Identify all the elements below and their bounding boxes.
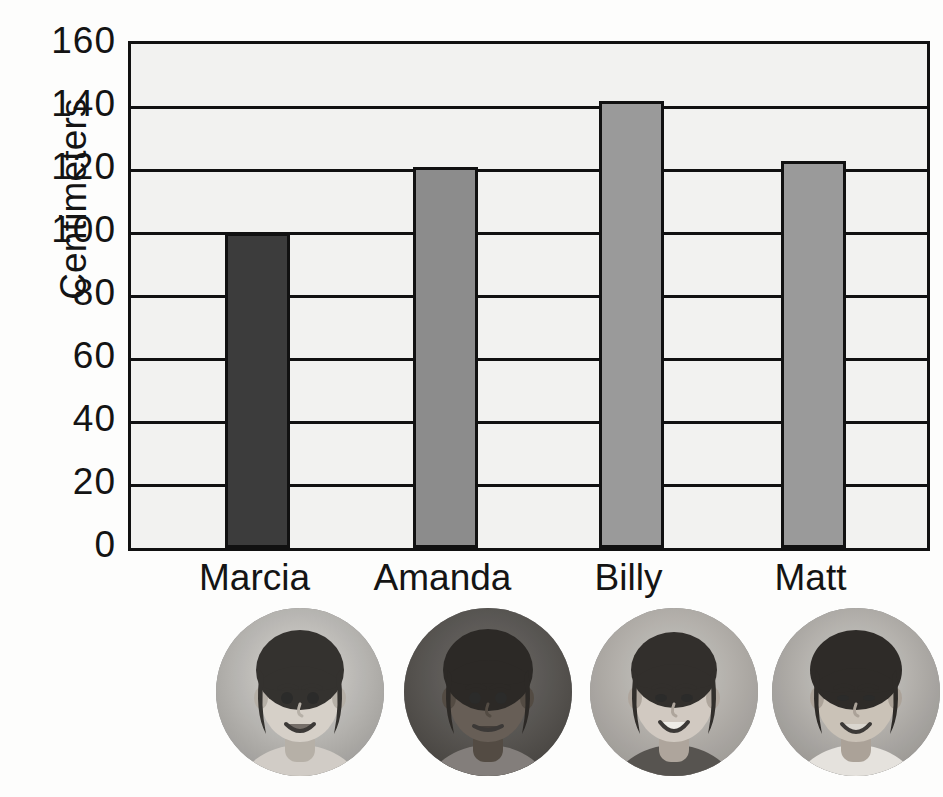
y-tick-label-100: 100 [6, 211, 116, 248]
x-tick-label-marcia: Marcia [155, 556, 355, 600]
gridline-140 [131, 106, 927, 109]
x-tick-label-matt: Matt [711, 556, 911, 600]
y-tick-label-0: 0 [6, 526, 116, 563]
matt-face-art [772, 608, 940, 776]
chart-title-clipped: Heights of Children in Our Class [0, 0, 943, 6]
x-tick-label-amanda: Amanda [343, 556, 543, 600]
portrait-billy [590, 608, 758, 776]
y-axis-tick-labels: 020406080100120140160 [0, 0, 116, 797]
portrait-marcia [216, 608, 384, 776]
y-tick-label-120: 120 [6, 148, 116, 185]
y-tick-label-160: 160 [6, 22, 116, 59]
y-tick-label-140: 140 [6, 85, 116, 122]
bar-marcia [225, 233, 290, 548]
bar-billy [599, 101, 664, 548]
y-tick-label-20: 20 [6, 463, 116, 500]
plot-inner [131, 44, 927, 548]
portrait-amanda [404, 608, 572, 776]
marcia-face-art [216, 608, 384, 776]
amanda-face-art [404, 608, 572, 776]
bar-matt [781, 161, 846, 548]
billy-face-art [590, 608, 758, 776]
y-tick-label-80: 80 [6, 274, 116, 311]
bar-chart-figure: Heights of Children in Our Class Centime… [0, 0, 943, 797]
portrait-row [128, 608, 930, 788]
x-tick-label-billy: Billy [529, 556, 729, 600]
y-tick-label-60: 60 [6, 337, 116, 374]
portrait-matt [772, 608, 940, 776]
plot-area [128, 41, 930, 551]
x-axis-tick-labels: MarciaAmandaBillyMatt [128, 556, 930, 604]
y-tick-label-40: 40 [6, 400, 116, 437]
bar-amanda [413, 167, 478, 548]
